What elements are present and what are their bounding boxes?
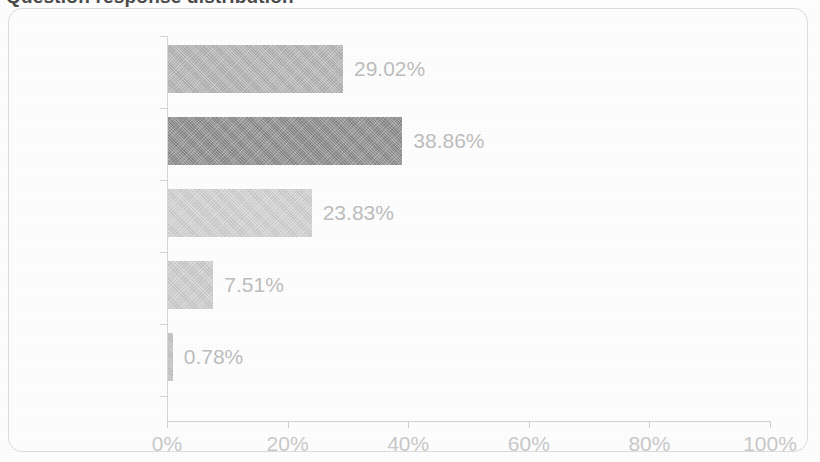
value-axis-tick (770, 421, 771, 428)
category-axis-tick (160, 396, 167, 397)
cropped-chart-title: Question response distribution (0, 0, 820, 7)
category-axis-tick (160, 180, 167, 181)
value-axis-tick-label: 100% (743, 432, 797, 456)
cropped-title-text: Question response distribution (6, 0, 820, 6)
value-axis-tick-label: 0% (152, 432, 182, 456)
category-axis-tick (160, 324, 167, 325)
value-axis-tick (649, 421, 650, 428)
category-axis-tick (160, 108, 167, 109)
value-axis-tick (408, 421, 409, 428)
value-axis-tick-label: 60% (508, 432, 550, 456)
value-axis-tick-label: 80% (628, 432, 670, 456)
bar-rarely (168, 261, 213, 309)
value-axis-tick (529, 421, 530, 428)
bar-never (168, 333, 173, 381)
chart-page: Question response distribution 0%20%40%6… (0, 0, 820, 462)
value-axis-line (167, 421, 770, 422)
bar-always (168, 45, 343, 93)
plot-area: 0%20%40%60%80%100% 29.02%38.86%23.83%7.5… (167, 36, 770, 421)
bar-value-label-often: 38.86% (413, 117, 484, 165)
bar-sometimes (168, 189, 312, 237)
category-axis-tick (160, 36, 167, 37)
bar-value-label-never: 0.78% (184, 333, 244, 381)
bar-value-label-always: 29.02% (354, 45, 425, 93)
bar-often (168, 117, 402, 165)
bar-value-label-rarely: 7.51% (224, 261, 284, 309)
value-axis-tick (167, 421, 168, 428)
bar-value-label-sometimes: 23.83% (323, 189, 394, 237)
category-axis-tick (160, 252, 167, 253)
value-axis-tick-label: 20% (267, 432, 309, 456)
value-axis-tick-label: 40% (387, 432, 429, 456)
value-axis-tick (288, 421, 289, 428)
